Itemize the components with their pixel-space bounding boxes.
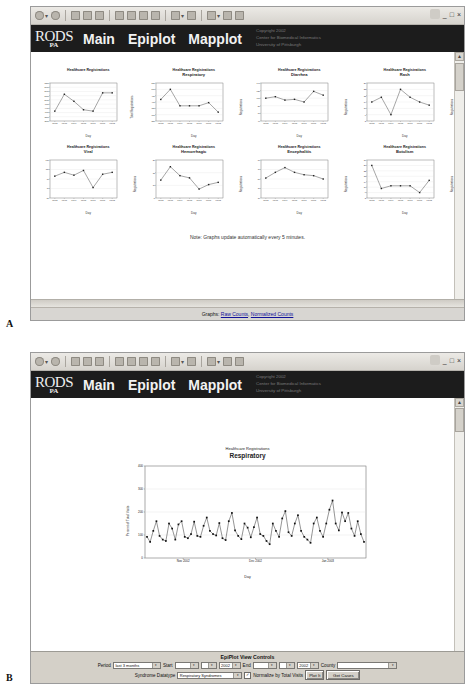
datatype-select[interactable]: Respiratory Syndromes ▾ — [177, 672, 242, 679]
favorites-icon[interactable] — [127, 11, 136, 20]
chevron-down-icon[interactable]: ▾ — [233, 673, 241, 678]
start-day-select[interactable]: ▾ — [201, 662, 217, 669]
nav-epiplot[interactable]: Epiplot — [128, 31, 175, 47]
media-icon[interactable] — [151, 11, 160, 20]
y-axis-label: Registrations — [344, 98, 348, 114]
mail-icon[interactable] — [171, 357, 180, 366]
site-banner-b: RODS PA Main Epiplot Mapplot Copyright 2… — [31, 371, 464, 398]
nav-mapplot[interactable]: Mapplot — [188, 377, 242, 393]
scrollbar-thumb[interactable] — [455, 408, 464, 432]
start-year-select[interactable]: 2002 ▾ — [219, 662, 241, 669]
svg-text:01/08: 01/08 — [321, 122, 327, 124]
nav-epiplot[interactable]: Epiplot — [128, 377, 175, 393]
svg-text:01/05: 01/05 — [186, 122, 192, 124]
main-nav-a[interactable]: Main Epiplot Mapplot — [83, 31, 242, 47]
scroll-up-icon[interactable]: ▲ — [455, 52, 464, 61]
refresh-icon[interactable] — [83, 11, 92, 20]
svg-text:300: 300 — [151, 113, 155, 115]
edit-icon[interactable] — [207, 11, 216, 20]
county-select[interactable]: ▾ — [337, 662, 397, 669]
close-button[interactable]: × — [457, 357, 461, 364]
svg-text:0: 0 — [141, 556, 143, 560]
chevron-down-icon[interactable]: ▾ — [388, 663, 396, 668]
svg-text:5300: 5300 — [44, 94, 49, 96]
chevron-down-icon[interactable]: ▾ — [190, 663, 198, 668]
vertical-scrollbar-b[interactable]: ▲ ▼ — [454, 398, 464, 683]
close-button[interactable]: × — [457, 11, 461, 18]
minimize-button[interactable]: _ — [443, 357, 447, 364]
svg-text:300: 300 — [138, 487, 143, 491]
discuss-icon[interactable] — [223, 11, 232, 20]
period-select[interactable]: last 3 months ▾ — [113, 662, 161, 669]
plot-area: 3500380041004400470050005300560059006200… — [37, 80, 140, 134]
history-icon[interactable] — [139, 11, 148, 20]
vertical-scrollbar-a[interactable]: ▲ ▼ — [454, 52, 464, 320]
stop-icon[interactable] — [71, 11, 80, 20]
plot-it-button[interactable]: Plot It — [305, 670, 324, 680]
svg-text:01/02: 01/02 — [52, 199, 58, 201]
get-cases-button[interactable]: Get Cases — [326, 670, 360, 680]
scroll-up-icon[interactable]: ▲ — [455, 398, 464, 407]
chevron-down-icon[interactable]: ▾ — [208, 663, 216, 668]
window-controls-a[interactable]: _ □ × — [430, 9, 461, 19]
maximize-button[interactable]: □ — [450, 357, 454, 364]
chevron-down-icon[interactable]: ▾ — [310, 663, 318, 668]
favorites-icon[interactable] — [127, 357, 136, 366]
forward-icon[interactable] — [51, 357, 60, 366]
normalized-counts-link[interactable]: Normalized Counts — [251, 311, 294, 317]
discuss-icon[interactable] — [223, 357, 232, 366]
browser-toolbar-b[interactable]: ▾ ▾ ▾ _ □ × — [31, 353, 464, 371]
svg-text:500: 500 — [151, 88, 155, 90]
search-icon[interactable] — [115, 357, 124, 366]
graph-links[interactable]: Graphs: Raw Counts, Normalized Counts — [31, 308, 464, 317]
chevron-down-icon[interactable]: ▾ — [286, 663, 294, 668]
chevron-down-icon[interactable]: ▾ — [152, 663, 160, 668]
nav-main[interactable]: Main — [83, 377, 115, 393]
normalize-checkbox[interactable]: ✓ — [244, 672, 251, 679]
raw-counts-link[interactable]: Raw Counts — [221, 311, 248, 317]
messenger-icon[interactable] — [235, 357, 244, 366]
svg-text:01/04: 01/04 — [282, 122, 288, 124]
chevron-down-icon[interactable]: ▾ — [268, 663, 276, 668]
chevron-down-icon[interactable]: ▾ — [232, 663, 240, 668]
maximize-button[interactable]: □ — [450, 11, 454, 18]
stop-icon[interactable] — [71, 357, 80, 366]
copyright-block-b: Copyright 2002 Center for Biomedical Inf… — [256, 374, 321, 394]
minimize-button[interactable]: _ — [443, 11, 447, 18]
home-icon[interactable] — [95, 11, 104, 20]
media-icon[interactable] — [151, 357, 160, 366]
forward-icon[interactable] — [51, 11, 60, 20]
end-month-select[interactable]: ▾ — [253, 662, 277, 669]
nav-main[interactable]: Main — [83, 31, 115, 47]
svg-text:01/02: 01/02 — [369, 199, 375, 201]
back-icon[interactable] — [35, 357, 44, 366]
y-axis-label: Registrations — [239, 98, 243, 114]
messenger-icon[interactable] — [235, 11, 244, 20]
window-controls-b[interactable]: _ □ × — [430, 355, 461, 365]
print-icon[interactable] — [187, 11, 196, 20]
refresh-icon[interactable] — [83, 357, 92, 366]
search-icon[interactable] — [115, 11, 124, 20]
browser-window-b: ▾ ▾ ▾ _ □ × — [30, 352, 465, 684]
browser-toolbar-a[interactable]: ▾ ▾ ▾ _ □ × — [31, 7, 464, 25]
svg-text:01/05: 01/05 — [81, 122, 87, 124]
home-icon[interactable] — [95, 357, 104, 366]
plot-area: 510152001/0201/0301/0401/0501/0601/0701/… — [143, 157, 246, 211]
svg-text:Nov 2002: Nov 2002 — [177, 559, 190, 563]
svg-text:01/05: 01/05 — [292, 199, 298, 201]
mail-icon[interactable] — [171, 11, 180, 20]
x-axis-label: Day — [248, 134, 351, 138]
end-year-select[interactable]: 2002 ▾ — [297, 662, 319, 669]
end-day-select[interactable]: ▾ — [279, 662, 295, 669]
nav-mapplot[interactable]: Mapplot — [188, 31, 242, 47]
history-icon[interactable] — [139, 357, 148, 366]
print-icon[interactable] — [187, 357, 196, 366]
start-month-select[interactable]: ▾ — [175, 662, 199, 669]
big-chart-svg: 0100200300400Nov 2002Dec 2002Jan 2003 — [125, 462, 370, 570]
scrollbar-thumb[interactable] — [455, 63, 464, 91]
svg-text:550: 550 — [151, 81, 155, 83]
horizontal-scrollbar-a[interactable] — [31, 300, 464, 308]
edit-icon[interactable] — [207, 357, 216, 366]
main-nav-b[interactable]: Main Epiplot Mapplot — [83, 377, 242, 393]
back-icon[interactable] — [35, 11, 44, 20]
